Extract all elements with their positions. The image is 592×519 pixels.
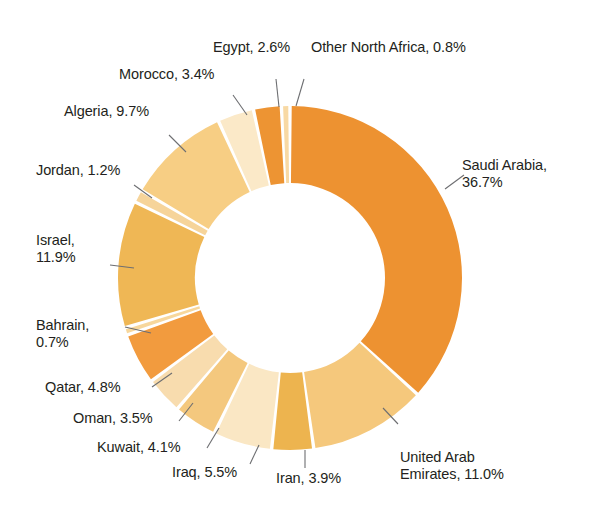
slice-label-qatar: Qatar, 4.8% <box>45 379 120 396</box>
slice-label-united-arab-emirates: United Arab Emirates, 11.0% <box>400 449 504 483</box>
slice-label-algeria: Algeria, 9.7% <box>64 103 149 120</box>
donut-slice-other-north-africa[interactable]: Other North Africa, 0.8% <box>283 106 289 183</box>
leader-morocco <box>233 95 247 115</box>
slice-label-jordan: Jordan, 1.2% <box>36 162 120 179</box>
slice-label-bahrain: Bahrain, 0.7% <box>36 317 89 351</box>
leader-iraq <box>250 445 259 464</box>
slice-label-iran: Iran, 3.9% <box>276 470 341 487</box>
donut-chart: Saudi Arabia, 36.7%United Arab Emirates,… <box>0 0 592 519</box>
slice-label-oman: Oman, 3.5% <box>73 410 153 427</box>
chart-page: Saudi Arabia, 36.7%United Arab Emirates,… <box>0 0 592 519</box>
donut-slice-saudi-arabia[interactable]: Saudi Arabia, 36.7% <box>291 106 462 393</box>
leader-other-north-africa <box>296 79 304 106</box>
leader-egypt <box>276 79 279 107</box>
donut-slices: Saudi Arabia, 36.7%United Arab Emirates,… <box>118 106 462 450</box>
slice-label-israel: Israel, 11.9% <box>36 232 76 266</box>
slice-label-other-north-africa: Other North Africa, 0.8% <box>311 39 466 56</box>
slice-label-iraq: Iraq, 5.5% <box>172 464 237 481</box>
slice-label-morocco: Morocco, 3.4% <box>119 66 214 83</box>
slice-label-saudi-arabia: Saudi Arabia, 36.7% <box>462 157 547 191</box>
slice-label-egypt: Egypt, 2.6% <box>213 39 290 56</box>
slice-label-kuwait: Kuwait, 4.1% <box>97 439 180 456</box>
